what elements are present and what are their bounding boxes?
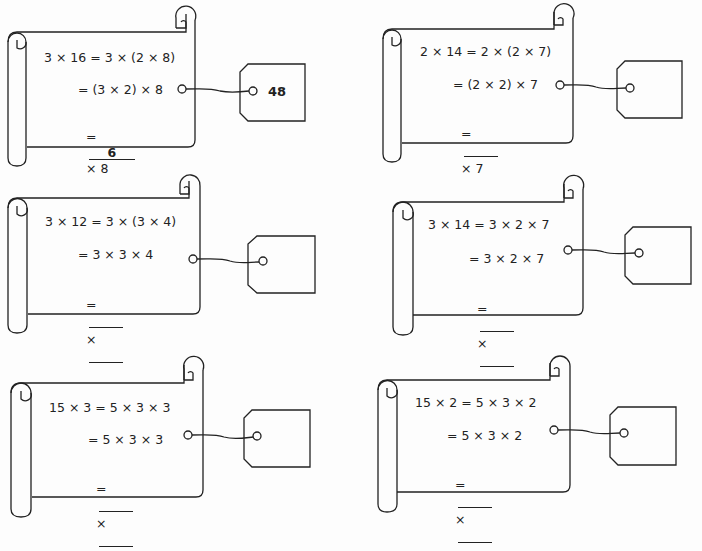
problem-3-line-2: = 3 × 3 × 4 [78, 247, 153, 263]
problem-4-line-1: 3 × 14 = 3 × 2 × 7 [428, 217, 549, 233]
equals-sign: = [86, 297, 96, 312]
problem-1-tag-answer[interactable]: 48 [268, 84, 286, 99]
answer-blank-1[interactable] [99, 497, 133, 512]
problem-4-line-3: = × [469, 285, 517, 371]
line-3-suffix: × 8 [86, 161, 108, 176]
scroll-3 [8, 175, 315, 333]
problem-1-line-3: = 6 × 8 [78, 113, 138, 177]
equals-sign: = [477, 301, 487, 316]
times-sign: × [477, 336, 487, 351]
answer-blank-2[interactable] [458, 528, 492, 543]
answer-blank-2[interactable] [99, 532, 133, 547]
problem-3-line-1: 3 × 12 = 3 × (3 × 4) [45, 214, 176, 230]
equals-sign: = [461, 126, 471, 141]
problem-2-line-1: 2 × 14 = 2 × (2 × 7) [420, 44, 551, 60]
answer-blank-1[interactable] [464, 142, 498, 157]
answer-blank-2[interactable] [89, 348, 123, 363]
problem-6-line-2: = 5 × 3 × 2 [447, 428, 522, 444]
times-sign: × [86, 332, 96, 347]
problem-1-line-1: 3 × 16 = 3 × (2 × 8) [44, 50, 175, 66]
problem-2-line-2: = (2 × 2) × 7 [453, 77, 538, 93]
problem-1-line-2: = (3 × 2) × 8 [78, 82, 163, 98]
problem-5-line-1: 15 × 3 = 5 × 3 × 3 [49, 400, 170, 416]
equals-sign: = [455, 477, 465, 492]
equals-sign: = [96, 481, 106, 496]
scroll-6 [378, 356, 676, 512]
times-sign: × [96, 516, 106, 531]
answer-blank-1[interactable] [458, 493, 492, 508]
problem-5-line-2: = 5 × 3 × 3 [88, 432, 163, 448]
problem-3-line-3: = × [78, 281, 126, 367]
problem-6-line-3: = × [447, 461, 495, 547]
answer-blank-2[interactable] [480, 352, 514, 367]
problem-6-line-1: 15 × 2 = 5 × 3 × 2 [415, 395, 536, 411]
answer-blank-1[interactable] [480, 317, 514, 332]
problem-2-line-3: = × 7 [453, 110, 501, 177]
problem-4-line-2: = 3 × 2 × 7 [469, 251, 544, 267]
answer-blank-1[interactable]: 6 [89, 145, 135, 160]
equals-sign: = [86, 129, 96, 144]
problem-5-line-3: = × [88, 465, 136, 551]
times-sign: × [455, 512, 465, 527]
answer-blank-1[interactable] [89, 313, 123, 328]
line-3-suffix: × 7 [461, 161, 483, 176]
